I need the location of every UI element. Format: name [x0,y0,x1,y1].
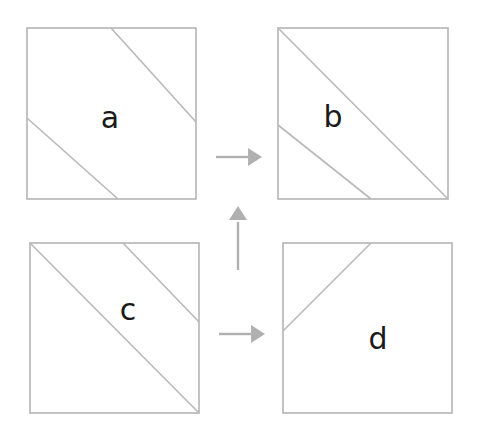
figure-canvas: abcd [0,0,480,432]
panel-b: b [278,28,448,199]
arrow-c-to-d-head [251,325,265,343]
arrow-a-to-b-head [248,148,262,166]
panel-c: c [30,243,199,413]
arrow-c-to-d [219,325,265,343]
panel-b-label: b [323,99,342,134]
arrow-c-to-a [229,206,247,270]
panel-d-label: d [368,321,387,356]
arrow-c-to-a-head [229,206,247,220]
panel-a-label: a [101,100,119,135]
panel-d: d [283,243,452,413]
panel-c-label: c [120,292,137,327]
arrow-a-to-b [216,148,262,166]
panel-a: a [27,28,196,199]
reasoning-diagram: abcd [0,0,480,432]
